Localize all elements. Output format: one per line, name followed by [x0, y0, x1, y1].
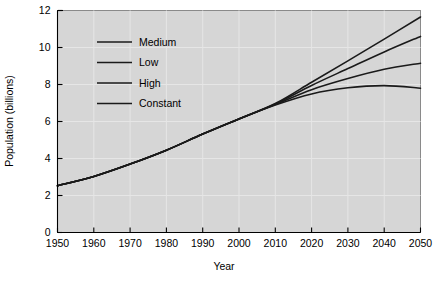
- x-tick-label: 2050: [409, 237, 433, 249]
- legend-label-low: Low: [139, 56, 159, 68]
- x-tick-label: 2010: [264, 237, 288, 249]
- y-tick-label: 2: [45, 189, 51, 201]
- x-tick-label: 1990: [191, 237, 215, 249]
- chart-svg: 024681012 195019601970198019902000201020…: [0, 0, 440, 282]
- legend-label-medium: Medium: [139, 36, 177, 48]
- population-projection-chart: 024681012 195019601970198019902000201020…: [0, 0, 440, 282]
- x-tick-label: 1950: [46, 237, 70, 249]
- y-tick-label: 6: [45, 115, 51, 127]
- legend-label-high: High: [139, 77, 161, 89]
- x-tick-label: 2020: [300, 237, 324, 249]
- y-tick-label: 8: [45, 78, 51, 90]
- y-tick-label: 10: [39, 41, 51, 53]
- x-tick-label: 2000: [227, 237, 251, 249]
- x-tick-label: 2040: [373, 237, 397, 249]
- x-tick-label: 1960: [82, 237, 106, 249]
- y-axis-title: Population (billions): [3, 75, 15, 167]
- x-tick-label: 1970: [118, 237, 142, 249]
- legend-label-constant: Constant: [139, 97, 181, 109]
- x-tick-label: 2030: [336, 237, 360, 249]
- x-tick-label: 1980: [155, 237, 179, 249]
- x-axis-title: Year: [213, 260, 235, 272]
- y-tick-label: 4: [45, 152, 51, 164]
- y-tick-label: 12: [39, 4, 51, 16]
